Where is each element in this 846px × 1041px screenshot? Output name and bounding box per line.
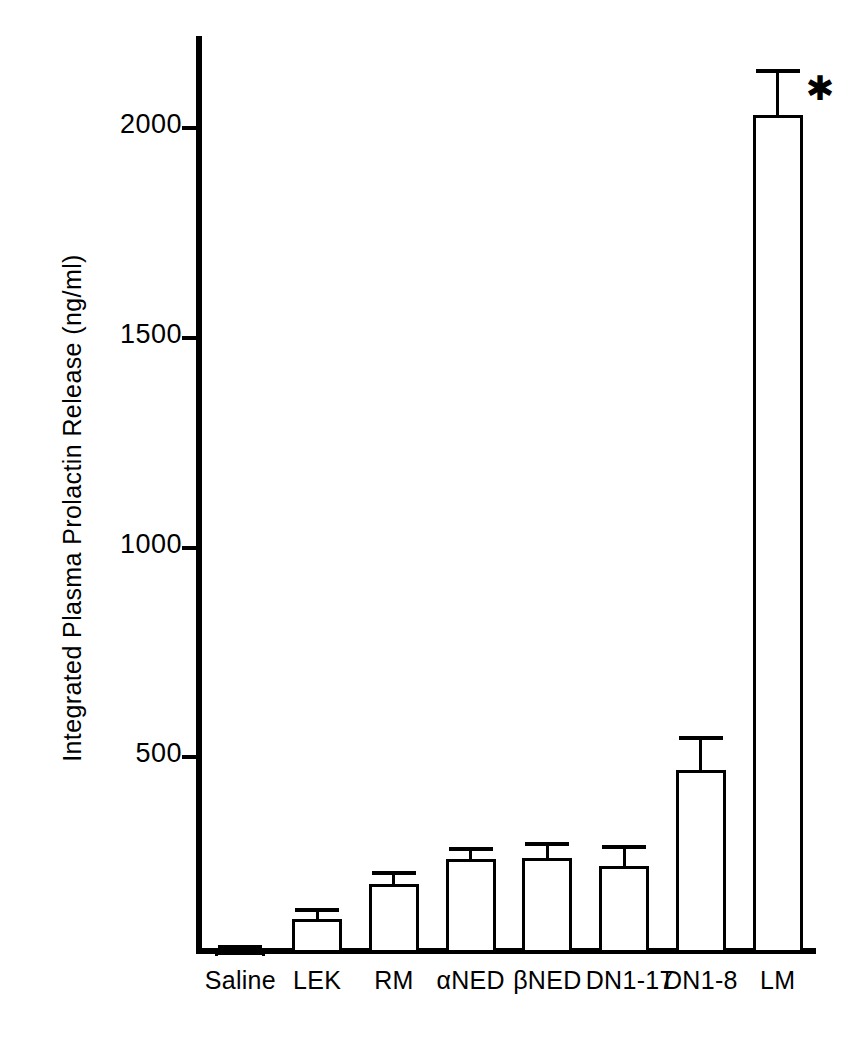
y-tick-mark-500 bbox=[182, 755, 197, 759]
x-axis-label-dn1-8: DN1-8 bbox=[663, 966, 740, 995]
error-bar-cap--ned bbox=[449, 847, 493, 851]
error-bar-cap-lek bbox=[295, 908, 339, 912]
x-axis-label-lm: LM bbox=[739, 966, 816, 995]
y-tick-mark-1000 bbox=[182, 546, 197, 550]
bar-dn1-17 bbox=[599, 866, 649, 950]
x-axis-label-saline: Saline bbox=[202, 966, 279, 995]
x-axis-label--ned: αNED bbox=[432, 966, 509, 995]
error-bar-cap-lm bbox=[756, 69, 800, 73]
error-bar-stem-dn1-8 bbox=[699, 736, 702, 770]
x-axis-label-rm: RM bbox=[356, 966, 433, 995]
bar-rm bbox=[369, 884, 419, 950]
error-bar-cap-rm bbox=[372, 871, 416, 875]
y-tick-mark-1500 bbox=[182, 336, 197, 340]
y-tick-label-2000: 2000 bbox=[86, 109, 182, 140]
bar-saline bbox=[215, 952, 265, 956]
bar-lm bbox=[753, 115, 803, 950]
bar-lek bbox=[292, 919, 342, 950]
x-axis-label--ned: βNED bbox=[509, 966, 586, 995]
bar-dn1-8 bbox=[676, 770, 726, 950]
bar--ned bbox=[446, 859, 496, 950]
error-bar-cap-saline bbox=[218, 945, 262, 949]
significance-marker-lm: ✱ bbox=[806, 71, 835, 105]
error-bar-stem-lm bbox=[776, 69, 779, 115]
error-bar-cap-dn1-8 bbox=[679, 736, 723, 740]
error-bar-cap-dn1-17 bbox=[602, 845, 646, 849]
y-tick-label-500: 500 bbox=[86, 738, 182, 769]
plot-area: 2000 1500 1000 500 ✱ SalineLEKRMαNEDβNED… bbox=[0, 0, 846, 1041]
error-bar-cap--ned bbox=[525, 842, 569, 846]
y-tick-label-1000: 1000 bbox=[86, 529, 182, 560]
y-axis-line bbox=[196, 36, 202, 954]
x-axis-label-lek: LEK bbox=[279, 966, 356, 995]
x-axis-label-dn1-17: DN1-17 bbox=[586, 966, 663, 995]
y-tick-label-1500: 1500 bbox=[86, 319, 182, 350]
bar--ned bbox=[522, 858, 572, 950]
figure-container: Integrated Plasma Prolactin Release (ng/… bbox=[0, 0, 846, 1041]
y-tick-mark-2000 bbox=[182, 126, 197, 130]
